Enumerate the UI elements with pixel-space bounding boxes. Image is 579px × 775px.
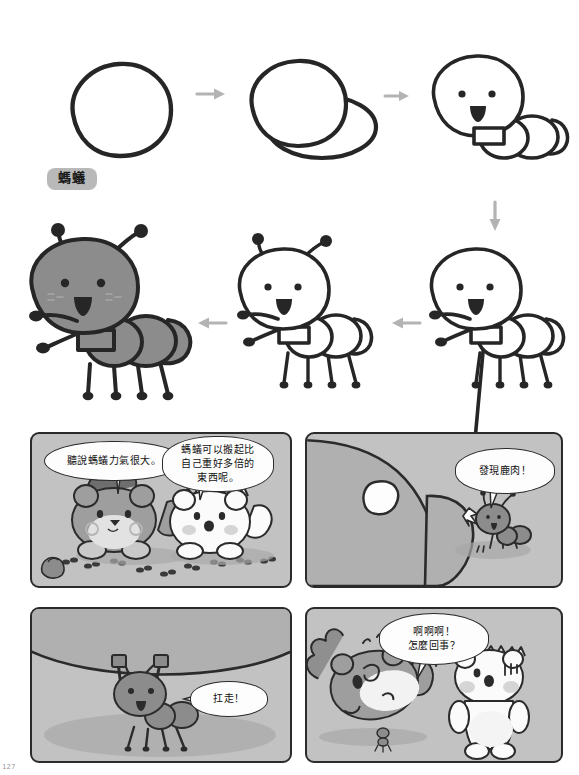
tutorial-step-3 [424,50,576,168]
speech-bubble-squirrel-text: 聽說螞蟻力氣很大。 [61,454,168,468]
arrow-step1-to-step2 [195,86,229,102]
speech-bubble-ant: 發現鹿肉！ [455,448,555,494]
tutorial-step-2 [240,54,390,169]
panel-3: 扛走！ [30,607,292,763]
panel-4: 啊啊啊！ 怎麼回事？ [305,607,563,763]
speech-bubble-ant-carry: 扛走！ [190,681,268,717]
tutorial-step-6 [22,222,212,407]
panel-1: 聽說螞蟻力氣很大。 螞蟻可以搬起比 自己重好多倍的 東西呢。 [30,432,292,588]
speech-bubble-bear: 螞蟻可以搬起比 自己重好多倍的 東西呢。 [162,436,274,492]
panel-2: 發現鹿肉！ [305,432,563,588]
speech-bubble-bear-text: 螞蟻可以搬起比 自己重好多倍的 東西呢。 [175,443,261,484]
ant-label-chip: 螞蟻 [47,168,97,190]
drawing-tutorial: 螞蟻 [0,0,579,410]
tutorial-step-5 [232,235,392,400]
tutorial-step-4 [424,235,576,400]
speech-bubble-squirrel-panic: 啊啊啊！ 怎麼回事？ [379,613,489,665]
arrow-step4-to-step5 [390,315,422,331]
arrow-step3-to-step4 [487,200,503,234]
speech-bubble-ant-carry-text: 扛走！ [207,692,251,706]
speech-bubble-ant-text: 發現鹿肉！ [473,464,538,478]
comic-strip: 聽說螞蟻力氣很大。 螞蟻可以搬起比 自己重好多倍的 東西呢。 [0,415,579,775]
page-number: 127 [2,763,15,771]
page-root: 螞蟻 [0,0,579,775]
tutorial-step-1 [55,52,185,162]
arrow-step2-to-step3 [383,88,413,104]
speech-bubble-squirrel-panic-text: 啊啊啊！ 怎麼回事？ [402,625,467,653]
